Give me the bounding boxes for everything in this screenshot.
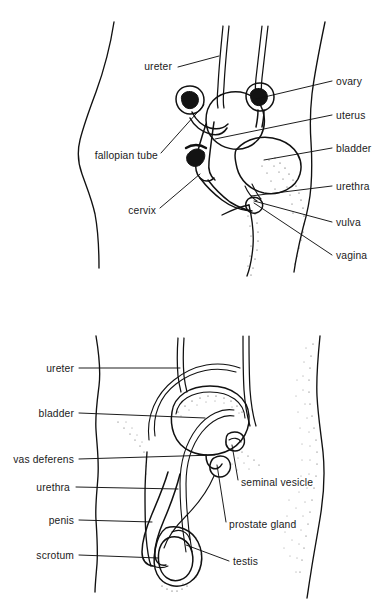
male-front-outline <box>145 452 151 566</box>
label-male-vas-deferens: vas deferens <box>13 454 74 465</box>
female-back-outline <box>78 22 114 268</box>
male-seminal-vesicle <box>226 432 245 451</box>
male-bladder <box>171 386 249 455</box>
figure-male-reproductive-system: Male reproductive system (sagittal secti… <box>0 300 379 613</box>
male-testis <box>158 537 192 581</box>
label-female-ureter: ureter <box>144 61 172 72</box>
label-male-seminal-vesicle: seminal vesicle <box>241 477 313 488</box>
male-scrotum <box>154 527 202 586</box>
male-ureter-left <box>177 338 187 392</box>
label-male-urethra: urethra <box>36 482 70 493</box>
male-seminal-vesicle-fold <box>229 438 241 442</box>
female-cervix-inner <box>209 122 215 180</box>
female-ovary-left-shading <box>181 91 198 108</box>
label-male-bladder: bladder <box>39 408 75 419</box>
label-female-fallopian-tube: fallopian tube <box>95 150 158 161</box>
label-female-vulva: vulva <box>336 217 361 228</box>
label-female-uterus: uterus <box>336 110 366 121</box>
female-bladder <box>235 137 301 193</box>
label-male-ureter: ureter <box>46 363 74 374</box>
label-female-bladder: bladder <box>336 143 372 154</box>
label-male-penis: penis <box>49 515 74 526</box>
male-thigh-stipple <box>284 344 318 573</box>
male-back-outline <box>95 336 100 592</box>
male-peritoneum-arc-outer <box>148 364 240 440</box>
female-front-outline <box>294 22 325 272</box>
female-cervix-fold <box>186 145 206 148</box>
label-female-cervix: cervix <box>128 205 156 216</box>
figure-female-reproductive-system: Female reproductive system (sagittal sec… <box>0 0 379 300</box>
label-male-testis: testis <box>233 556 258 567</box>
female-cervix-shading <box>187 149 205 166</box>
male-bladder-dome-stipple <box>177 395 242 416</box>
female-fallopian-tube-right <box>256 110 258 127</box>
label-female-ovary: ovary <box>336 76 363 87</box>
male-groin-stipple <box>228 452 260 473</box>
male-abdomen-stipple <box>118 422 147 475</box>
male-bladder-inner-rim <box>176 392 245 418</box>
label-female-urethra: urethra <box>336 181 370 192</box>
diagram-page: Female reproductive system (sagittal sec… <box>0 0 379 613</box>
label-male-prostate-gland: prostate gland <box>229 519 296 530</box>
male-ureter-right <box>243 336 256 426</box>
label-female-vagina: vagina <box>336 250 367 261</box>
female-leaders-left <box>160 56 219 208</box>
female-fallopian-tube-left <box>192 112 228 129</box>
male-bladder-neck <box>206 455 222 469</box>
female-leaders-right <box>215 81 332 255</box>
label-male-scrotum: scrotum <box>36 550 74 561</box>
male-thigh-outline <box>307 336 324 598</box>
